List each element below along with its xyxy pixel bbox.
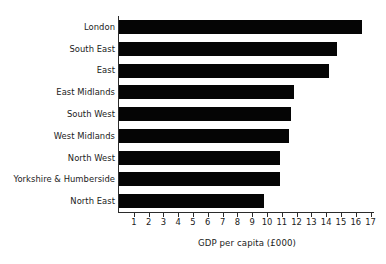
x-axis-tick-label: 6 — [205, 217, 210, 228]
bar-row — [119, 103, 375, 125]
x-axis-tick-label: 2 — [146, 217, 151, 228]
x-axis-tick-label: 16 — [350, 217, 361, 228]
bar-row — [119, 190, 375, 212]
bar — [119, 129, 289, 143]
x-axis-tick-label: 7 — [220, 217, 225, 228]
x-axis-tick-label: 10 — [262, 217, 273, 228]
y-axis-category-labels: LondonSouth EastEastEast MidlandsSouth W… — [0, 16, 115, 212]
bar — [119, 85, 294, 99]
x-axis-tick-label: 8 — [235, 217, 240, 228]
bar-chart: LondonSouth EastEastEast MidlandsSouth W… — [0, 0, 386, 264]
bar-row — [119, 60, 375, 82]
x-axis-tick-label: 14 — [321, 217, 332, 228]
y-axis-label: West Midlands — [0, 131, 115, 141]
y-axis-label: Yorkshire & Humberside — [0, 174, 115, 184]
bar — [119, 42, 337, 56]
x-axis-tick-label: 17 — [365, 217, 376, 228]
x-axis-tick-label: 5 — [190, 217, 195, 228]
bar — [119, 20, 362, 34]
x-axis-tick-label: 4 — [176, 217, 181, 228]
x-axis-tick-label: 12 — [291, 217, 302, 228]
x-axis-tick-label: 1 — [131, 217, 136, 228]
bar-row — [119, 147, 375, 169]
y-axis-label: North East — [0, 196, 115, 206]
x-axis-tick-label: 3 — [161, 217, 166, 228]
x-axis-tick-label: 13 — [306, 217, 317, 228]
y-axis-label: South East — [0, 44, 115, 54]
bar-row — [119, 38, 375, 60]
x-axis-tick-labels: 1234567891011121314151617 — [119, 217, 375, 229]
y-axis-label: London — [0, 22, 115, 32]
y-axis-label: North West — [0, 153, 115, 163]
bar — [119, 172, 280, 186]
x-axis-tick-label: 9 — [250, 217, 255, 228]
bar-row — [119, 16, 375, 38]
bar-series — [119, 16, 375, 212]
bar-row — [119, 125, 375, 147]
x-axis-tick-label: 11 — [276, 217, 287, 228]
bar-row — [119, 81, 375, 103]
y-axis-label: East Midlands — [0, 87, 115, 97]
bar — [119, 151, 280, 165]
x-axis-title: GDP per capita (£000) — [119, 238, 375, 249]
bar — [119, 194, 264, 208]
x-axis-tick-label: 15 — [336, 217, 347, 228]
y-axis-label: East — [0, 65, 115, 75]
y-axis-label: South West — [0, 109, 115, 119]
bar-row — [119, 168, 375, 190]
bar — [119, 64, 329, 78]
bar — [119, 107, 291, 121]
